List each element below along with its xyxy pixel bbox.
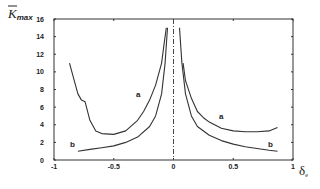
x-tick-label: 1 [291, 163, 295, 170]
y-tick-label: 2 [40, 139, 44, 146]
y-axis-label: Kmax [7, 6, 33, 22]
series-label-a-right: a [219, 112, 224, 121]
chart: 0246810121416 -1-0.500.51 Kmax δe a a b … [0, 0, 320, 189]
y-tick-label: 6 [40, 104, 44, 111]
y-tick-label: 14 [36, 33, 44, 40]
curve-a [183, 63, 277, 132]
curve-a [70, 28, 167, 135]
y-tick-label: 4 [40, 121, 44, 128]
series-label-a-left: a [136, 90, 141, 99]
y-tick-label: 8 [40, 86, 44, 93]
x-tick-label: -1 [51, 163, 57, 170]
x-tick-label: 0 [172, 163, 176, 170]
y-tick-label: 10 [36, 68, 44, 75]
series-label-b-right: b [268, 140, 273, 149]
x-tick-label: 0.5 [228, 163, 238, 170]
x-axis-ticks: -1-0.500.51 [51, 19, 295, 170]
y-tick-label: 12 [36, 51, 44, 58]
y-tick-label: 16 [36, 16, 44, 23]
curve-b [180, 28, 278, 151]
x-axis-label: δe [299, 163, 308, 178]
series-label-b-left: b [70, 140, 75, 149]
x-tick-label: -0.5 [108, 163, 120, 170]
y-tick-label: 0 [40, 157, 44, 164]
